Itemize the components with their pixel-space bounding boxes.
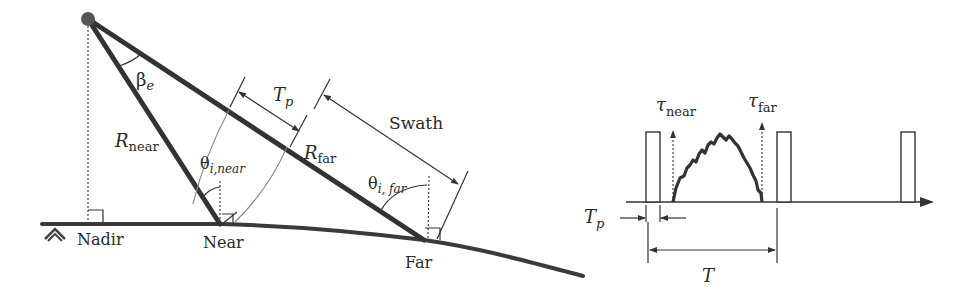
timing-panel: τnear τfar Tp T: [584, 90, 932, 286]
tx-pulse-3: [901, 132, 915, 202]
theta-near-arc: [203, 187, 220, 197]
tau-near-label: τnear: [656, 94, 697, 119]
theta-near-label: θi,near: [200, 154, 246, 176]
r-near-label: Rnear: [114, 130, 159, 154]
far-normal-line: [428, 176, 429, 240]
r-far-beam: [88, 19, 424, 240]
swath-label: Swath: [389, 113, 443, 133]
tx-pulse-2: [777, 132, 791, 202]
tp-tick-1: [230, 77, 245, 107]
near-label: Near: [203, 233, 244, 252]
nadir-right-angle: [88, 210, 103, 222]
geometry-panel: βe Tp Swath Rnear Rfar θi,near θi, far N…: [42, 12, 583, 276]
beam-angle-arc: [119, 54, 141, 66]
sar-diagram: βe Tp Swath Rnear Rfar θi,near θi, far N…: [0, 0, 979, 299]
r-near-beam: [88, 19, 220, 224]
swath-tick-2: [437, 171, 468, 239]
ground-hatch-icon: [45, 229, 65, 241]
tau-far-label: τfar: [748, 90, 778, 115]
nadir-label: Nadir: [77, 230, 124, 249]
far-label: Far: [405, 253, 433, 272]
pulse-width-label: Tp: [273, 84, 294, 109]
r-far-label: Rfar: [303, 142, 337, 166]
swath-dimension-arrow: [324, 95, 458, 184]
period-label: T: [702, 265, 716, 286]
tx-pulse-1: [646, 132, 660, 202]
swath-tick-1: [314, 79, 330, 109]
timing-pulse-width-label: Tp: [584, 206, 605, 231]
satellite-icon: [81, 12, 95, 26]
wavefront-arc-2: [235, 147, 287, 222]
theta-far-label: θi, far: [368, 174, 408, 196]
echo-signal: [673, 134, 762, 202]
beam-angle-label: βe: [136, 69, 154, 93]
